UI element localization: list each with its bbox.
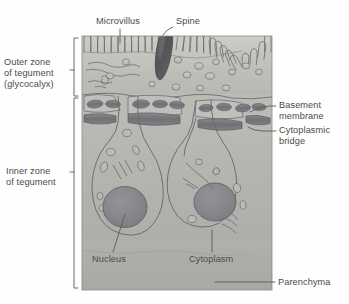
label-basement-membrane-line1: Basement xyxy=(279,100,321,111)
label-outer-zone-line1: Outer zone xyxy=(4,57,50,68)
label-cytoplasmic-bridge-line2: bridge xyxy=(279,136,305,147)
texture-grain xyxy=(82,36,272,290)
label-inner-zone-line1: Inner zone xyxy=(6,166,50,177)
label-nucleus: Nucleus xyxy=(92,254,126,265)
leader-spine xyxy=(163,27,173,35)
label-outer-zone-line2: of tegument xyxy=(4,68,54,79)
label-cytoplasmic-bridge-line1: Cytoplasmic xyxy=(279,125,330,136)
bracket-inner-zone xyxy=(74,98,78,288)
diagram-body xyxy=(82,21,272,290)
figure-canvas: Microvillus Spine Outer zone of tegument… xyxy=(0,0,349,304)
label-inner-zone-line2: of tegument xyxy=(6,177,56,188)
label-cytoplasm: Cytoplasm xyxy=(189,254,233,265)
bracket-outer-zone xyxy=(74,38,78,96)
label-outer-zone-line3: (glycocalyx) xyxy=(4,79,54,90)
label-microvillus: Microvillus xyxy=(96,16,140,27)
label-basement-membrane-line2: membrane xyxy=(279,111,324,122)
label-parenchyma: Parenchyma xyxy=(278,277,331,288)
label-spine: Spine xyxy=(176,16,200,27)
tegument-diagram xyxy=(0,0,349,304)
